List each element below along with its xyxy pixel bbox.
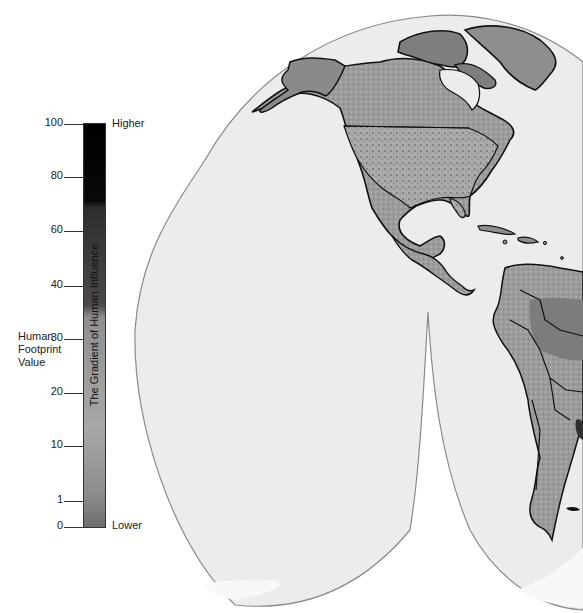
legend-tick: 30 [64, 339, 83, 340]
legend-tick-label: 80 [33, 169, 63, 181]
legend-tick-label: 0 [33, 519, 63, 531]
legend-tick-label: 30 [33, 331, 63, 343]
legend: Human Footprint Value The Gradient of Hu… [0, 0, 160, 613]
legend-tick-label: 60 [33, 223, 63, 235]
legend-bar-caption: The Gradient of Human Influence [88, 244, 100, 407]
legend-title-line: Footprint [18, 343, 78, 356]
legend-tick: 40 [64, 286, 83, 287]
legend-high-label: Higher [112, 117, 144, 129]
legend-tick: 0 [64, 527, 83, 528]
legend-title-line: Value [18, 356, 78, 369]
legend-tick-label: 20 [33, 385, 63, 397]
legend-tick-label: 10 [33, 438, 63, 450]
legend-tick-label: 100 [33, 116, 63, 128]
legend-low-label: Lower [112, 519, 142, 531]
caribbean-island [503, 240, 507, 244]
legend-tick: 100 [64, 124, 83, 125]
legend-tick: 80 [64, 177, 83, 178]
legend-tick-label: 1 [33, 493, 63, 505]
legend-tick-label: 40 [33, 278, 63, 290]
legend-tick: 20 [64, 393, 83, 394]
caribbean-island [561, 257, 564, 260]
legend-tick: 60 [64, 231, 83, 232]
legend-tick: 1 [64, 501, 83, 502]
caribbean-island [543, 241, 546, 244]
legend-tick: 10 [64, 446, 83, 447]
